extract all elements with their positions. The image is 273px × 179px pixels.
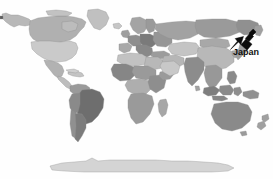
region-sulawesi [234,87,242,96]
region-central-asia [168,42,200,56]
world-map-figure: Japan [0,0,273,179]
region-south-america [69,84,104,142]
region-scandinavia [130,17,148,34]
region-tasmania [240,131,247,136]
region-indonesia-java [212,96,228,101]
region-japan [236,42,250,60]
region-indonesia-borneo [219,85,234,95]
region-iberia [119,43,132,53]
world-map-svg [0,0,273,179]
region-sri-lanka [195,86,200,91]
region-india [184,57,204,86]
region-mexico [44,60,64,78]
region-indonesia-sumatra [203,86,220,96]
region-united-states [31,41,78,62]
region-madagascar [158,99,168,117]
region-new-zealand-south [257,121,266,130]
region-siberia [195,19,244,38]
region-antarctica-group [50,158,234,172]
region-canada [29,16,86,43]
region-new-zealand-north [262,114,269,122]
region-canada-arctic [46,10,72,16]
region-asia [155,19,263,101]
region-oceania [211,102,269,136]
region-peru-bolivia [69,93,80,114]
region-iceland [113,23,122,29]
region-greenland [87,9,109,30]
region-philippines [227,71,237,84]
region-central-africa [125,79,152,95]
region-north-america [0,9,109,89]
region-alaska-islands [0,16,3,19]
region-finland-baltics [146,19,156,33]
region-antarctica [50,158,234,172]
region-papua-new-guinea [243,90,259,99]
region-southeast-asia [204,65,222,88]
region-southern-africa [128,93,154,124]
region-alaska [2,13,32,27]
region-kamchatka [254,25,263,36]
region-australia [211,102,252,131]
region-chile-strip [70,110,76,138]
